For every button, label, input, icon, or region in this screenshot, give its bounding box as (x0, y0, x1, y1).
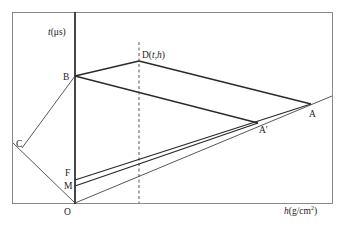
point-o-label: O (64, 207, 71, 217)
line-b-aprime (75, 76, 258, 123)
t-axis-label: t(μs) (48, 27, 66, 38)
point-d-label: D(t,h) (142, 50, 165, 61)
line-d-a (139, 61, 311, 104)
point-m-label: M (64, 181, 73, 191)
line-b-c (22, 76, 75, 148)
h-axis-label: h(g/cm2) (284, 205, 317, 217)
point-aprime-label: A' (259, 125, 268, 135)
line-b-d (75, 61, 139, 76)
wave-diagram: t(μs) h(g/cm2) B C F M O A A' D(t,h) (0, 0, 340, 227)
line-m-aprime (75, 123, 258, 186)
point-f-label: F (65, 168, 70, 178)
plot-frame (13, 13, 333, 204)
point-c-label: C (16, 139, 22, 149)
point-b-label: B (63, 72, 69, 82)
line-o-a-extended (75, 96, 332, 203)
line-f-a (75, 104, 311, 180)
point-a-label: A (309, 109, 316, 119)
